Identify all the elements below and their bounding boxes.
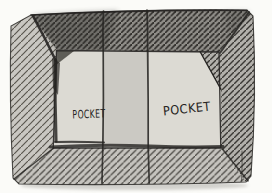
box-sketch: POCKET POCKET [0, 0, 272, 193]
left-pocket-bottom-line [55, 142, 104, 143]
left-pocket-edge-shadow [55, 60, 56, 141]
left-pocket-label: POCKET [72, 106, 106, 121]
inner-bottom-crease [50, 145, 223, 147]
frame-bottom-hatch [13, 148, 249, 185]
middle-panel [103, 51, 148, 148]
left-pocket-panel [55, 51, 104, 143]
figure: POCKET POCKET [0, 0, 272, 193]
